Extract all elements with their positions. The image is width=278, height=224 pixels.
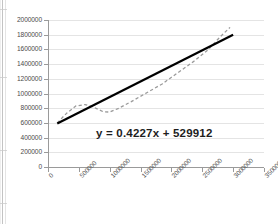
data-series-line <box>57 27 230 123</box>
page-canvas: 2000000180000016000001400000120000010000… <box>0 0 278 224</box>
series-layer <box>0 0 278 224</box>
trendline <box>57 35 233 124</box>
scatter-line-chart: 2000000180000016000001400000120000010000… <box>0 0 278 224</box>
trendline-equation-label: y = 0.4227x + 529912 <box>96 127 213 139</box>
